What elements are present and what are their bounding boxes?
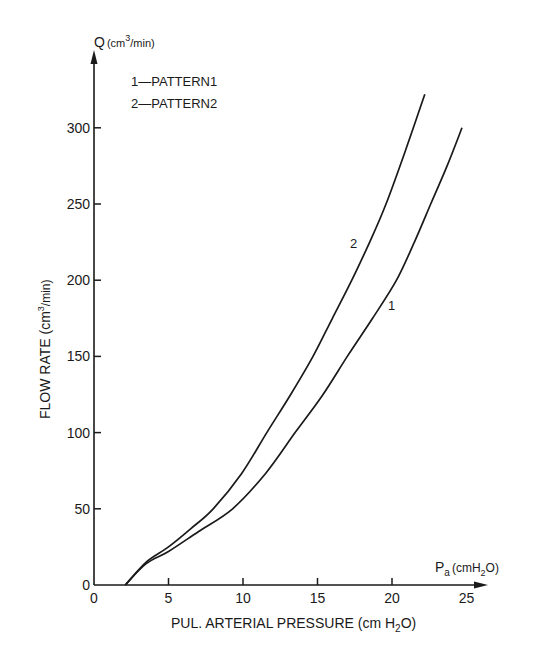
series-group: [125, 94, 462, 585]
y-tick-label: 150: [67, 348, 91, 364]
x-tick-label: 15: [310, 590, 326, 606]
y-ticks: 050100150200250300: [67, 120, 101, 593]
x-axis-end-label: Pa(cmH2O): [435, 559, 499, 578]
series-line-pattern2: [125, 94, 425, 585]
legend-item-pattern2: 2—PATTERN2: [131, 96, 217, 111]
x-axis-title: PUL. ARTERIAL PRESSURE (cm H2O): [171, 615, 416, 634]
flow-rate-chart: 050100150200250300 0510152025 Q(cm3/min)…: [0, 0, 537, 659]
x-axis-arrow-icon: [474, 582, 488, 589]
axes: [94, 58, 480, 585]
y-axis-end-label: Q(cm3/min): [94, 33, 155, 50]
x-tick-label: 5: [165, 590, 173, 606]
x-tick-label: 20: [384, 590, 400, 606]
curve-label-1: 1: [388, 298, 395, 313]
y-tick-label: 50: [74, 501, 90, 517]
y-tick-label: 100: [67, 425, 91, 441]
y-tick-label: 300: [67, 120, 91, 136]
y-tick-label: 200: [67, 272, 91, 288]
series-line-pattern1: [125, 128, 462, 585]
legend-item-pattern1: 1—PATTERN1: [131, 74, 217, 89]
y-axis-arrow-icon: [91, 50, 98, 64]
curve-label-2: 2: [350, 236, 357, 251]
y-axis-title: FLOW RATE (cm3/min): [36, 279, 53, 419]
x-tick-label: 10: [235, 590, 251, 606]
x-ticks: 0510152025: [90, 578, 474, 606]
x-tick-label: 0: [90, 590, 98, 606]
y-tick-label: 250: [67, 196, 91, 212]
x-tick-label: 25: [459, 590, 475, 606]
legend: 1—PATTERN1 2—PATTERN2: [131, 74, 217, 111]
y-tick-label: 0: [82, 577, 90, 593]
